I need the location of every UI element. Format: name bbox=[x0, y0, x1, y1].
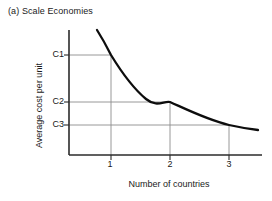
figure-panel: (a) Scale Economies Average cost per uni… bbox=[0, 0, 272, 201]
plot-area bbox=[0, 0, 272, 201]
average-cost-curve bbox=[97, 30, 258, 130]
